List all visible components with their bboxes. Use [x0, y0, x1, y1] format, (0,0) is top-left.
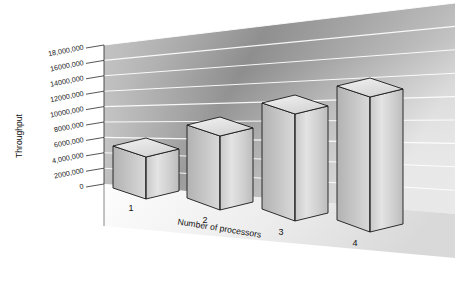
y-tick-label: 4,000,000 [51, 150, 84, 165]
x-tick-label: 1 [128, 203, 133, 213]
bar-front-face [146, 149, 179, 199]
y-tick-label: 14000,000 [49, 73, 84, 88]
bar-front-face [295, 106, 328, 221]
chart-canvas: 18,000,000 16000,000 14000,000 12000,000… [0, 0, 460, 286]
y-axis-title: Throughput [14, 113, 24, 158]
y-tick-label: 0 [79, 182, 85, 192]
bar-4[interactable] [337, 78, 403, 232]
bar-3[interactable] [262, 95, 328, 221]
y-tick-label: 16000,000 [49, 58, 84, 73]
bar-front-face [370, 89, 403, 232]
bar-side-face [187, 125, 220, 210]
y-tick-label: 8000,000 [53, 120, 84, 135]
y-tick-label: 18,000,000 [47, 43, 84, 59]
bar-front-face [220, 128, 253, 210]
bar-side-face [337, 86, 370, 232]
y-axis-tick-labels: 18,000,000 16000,000 14000,000 12000,000… [47, 43, 84, 192]
y-tick-label: 2000,000 [53, 166, 84, 181]
bar-side-face [262, 103, 295, 221]
y-tick-label: 6000,000 [53, 135, 84, 150]
bar-1[interactable] [113, 138, 179, 199]
bar-2[interactable] [187, 117, 253, 210]
bar-chart-3d: 18,000,000 16000,000 14000,000 12000,000… [0, 0, 460, 286]
y-tick-label: 10000,000 [49, 104, 84, 119]
y-axis-ticks [86, 45, 104, 187]
x-tick-label: 3 [278, 227, 283, 237]
x-tick-label: 4 [352, 238, 357, 248]
y-tick-label: 12000,000 [49, 89, 84, 104]
